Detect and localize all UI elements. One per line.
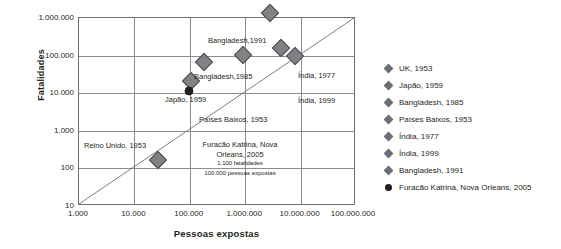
katrina-annotation-line2: Orleans, 2005 (175, 150, 305, 160)
chart-root: Fatalidades 10 100 1.000 10.000 100.000 … (0, 0, 561, 249)
x-tick-1: 10.000 (121, 209, 145, 218)
legend-item-label: Furacão Katrina, Nova Orleans, 2005 (399, 183, 532, 192)
y-tick-5: 1.000.000 (38, 13, 74, 22)
point-label-reino-unido-1953: Reino Unido, 1953 (84, 141, 146, 150)
legend-diamond-icon (384, 81, 394, 91)
point-label-japao-1959: Japão, 1959 (165, 95, 206, 104)
legend-item-label: UK, 1953 (399, 64, 432, 73)
legend-item-label: Bangladesh, 1985 (399, 98, 464, 107)
legend-item-label: Japão, 1959 (399, 81, 443, 90)
y-tick-4: 100.000 (45, 50, 74, 59)
data-point-furacao-katrina-2005[interactable] (185, 86, 194, 95)
legend-diamond-icon (384, 98, 394, 108)
legend-item[interactable]: Furacão Katrina, Nova Orleans, 2005 (385, 179, 561, 196)
legend-item[interactable]: Países Baixos, 1953 (385, 111, 561, 128)
legend-diamond-icon (384, 115, 394, 125)
x-tick-3: 1.000.000 (226, 209, 262, 218)
point-label-bangladesh-1985: Bangladesh,1985 (194, 72, 252, 81)
point-label-india-1999: Índia, 1999 (298, 96, 335, 105)
legend-item[interactable]: Japão, 1959 (385, 77, 561, 94)
chart-legend: UK, 1953 Japão, 1959 Bangladesh, 1985 Pa… (385, 60, 561, 196)
legend-item[interactable]: Bangladesh, 1985 (385, 94, 561, 111)
legend-diamond-icon (384, 166, 394, 176)
y-tick-3: 10.000 (50, 88, 74, 97)
legend-circle-icon (385, 184, 392, 191)
y-tick-1: 100 (61, 163, 74, 172)
legend-diamond-icon (384, 149, 394, 159)
katrina-annotation: Furacão Katrina, Nova Orleans, 2005 1.10… (175, 140, 305, 178)
y-axis-ticks: 10 100 1.000 10.000 100.000 1.000.000 (0, 0, 74, 249)
katrina-annotation-line3: 1.100 fatalidades (175, 159, 305, 169)
y-tick-2: 1.000 (54, 125, 74, 134)
x-tick-4: 10.000.000 (280, 209, 320, 218)
point-label-india-1977: Índia, 1977 (298, 71, 335, 80)
x-tick-2: 100.000 (174, 209, 203, 218)
point-label-paises-baixos-1953: Países Baixos, 1953 (199, 115, 267, 124)
point-label-bangladesh-1991: Bangladesh,1991 (208, 36, 266, 45)
x-tick-5: 100.000.000 (331, 209, 376, 218)
legend-item-label: Índia, 1977 (399, 132, 439, 141)
katrina-annotation-line1: Furacão Katrina, Nova (175, 140, 305, 150)
legend-item-label: Países Baixos, 1953 (399, 115, 472, 124)
legend-item-label: Bangladesh, 1991 (399, 166, 464, 175)
legend-item-label: Índia, 1999 (399, 149, 439, 158)
legend-item[interactable]: Bangladesh, 1991 (385, 162, 561, 179)
legend-diamond-icon (384, 64, 394, 74)
legend-item[interactable]: Índia, 1999 (385, 145, 561, 162)
katrina-annotation-line4: 100.000 pessoas expostas (175, 169, 305, 179)
plot-area: Reino Unido, 1953 Japão, 1959 Países Bai… (78, 17, 355, 205)
legend-item[interactable]: Índia, 1977 (385, 128, 561, 145)
x-axis-title: Pessoas expostas (78, 228, 355, 239)
legend-item[interactable]: UK, 1953 (385, 60, 561, 77)
legend-diamond-icon (384, 132, 394, 142)
x-tick-0: 1.000 (68, 209, 88, 218)
